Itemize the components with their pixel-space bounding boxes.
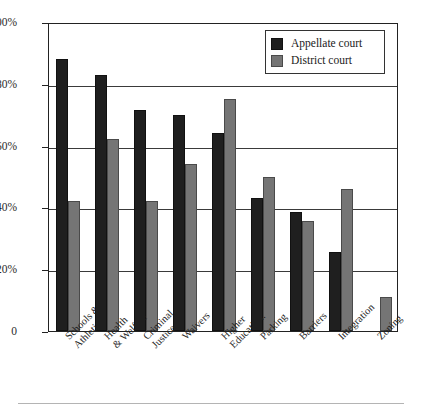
legend-swatch-district-icon: [271, 55, 283, 67]
legend-item-district: District court: [271, 52, 378, 69]
legend-label-appellate: Appellate court: [291, 38, 362, 50]
legend-swatch-appellate-icon: [271, 38, 283, 50]
bar-district: [263, 177, 275, 332]
bar-group: [173, 24, 197, 331]
bar-group: [56, 24, 80, 331]
bar-appellate: [290, 212, 302, 331]
bar-district: [146, 201, 158, 331]
bar-appellate: [173, 115, 185, 331]
legend-item-appellate: Appellate court: [271, 35, 378, 52]
y-tick-label-100%: 100%: [0, 17, 17, 29]
legend: Appellate court District court: [265, 30, 385, 74]
bar-district: [185, 164, 197, 331]
y-tick-label-80%: 80%: [0, 79, 17, 91]
bar-district: [302, 221, 314, 331]
bar-district: [68, 201, 80, 331]
bar-district: [224, 99, 236, 331]
x-axis-labels: Schools &AthleticHealth& WelfareCriminal…: [48, 334, 398, 394]
y-tick-label-40%: 40%: [0, 202, 17, 214]
legend-label-district: District court: [291, 55, 352, 67]
bar-appellate: [134, 110, 146, 331]
bar-group: [134, 24, 158, 331]
y-tick-mark-0: [42, 332, 48, 333]
y-tick-label-20%: 20%: [0, 264, 17, 276]
footer-rule: [18, 403, 404, 404]
y-tick-label-60%: 60%: [0, 141, 17, 153]
bar-group: [95, 24, 119, 331]
bar-chart-figure: 020%40%60%80%100% Appellate court Distri…: [0, 0, 421, 416]
y-tick-label-0: 0: [0, 326, 17, 338]
bar-appellate: [56, 59, 68, 331]
bar-district: [341, 189, 353, 331]
bar-appellate: [212, 133, 224, 331]
bar-appellate: [329, 252, 341, 331]
bar-appellate: [95, 75, 107, 331]
plot-area: Appellate court District court: [48, 23, 398, 332]
bar-group: [212, 24, 236, 331]
bar-district: [107, 139, 119, 331]
